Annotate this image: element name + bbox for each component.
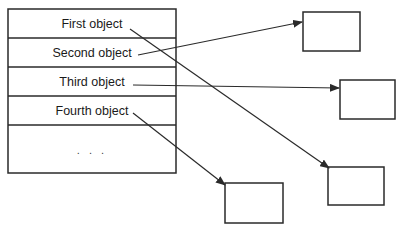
table-row-first-object: First object (8, 17, 176, 31)
table-row-ellipsis: . . . (8, 143, 176, 157)
object-box-3 (328, 167, 384, 205)
object-box-2 (340, 80, 395, 119)
object-boxes (225, 12, 395, 223)
object-box-1 (303, 12, 360, 51)
object-box-4 (225, 183, 283, 223)
table-row-second-object: Second object (8, 46, 176, 60)
table-row-third-object: Third object (8, 75, 176, 89)
table-row-fourth-object: Fourth object (8, 104, 176, 118)
